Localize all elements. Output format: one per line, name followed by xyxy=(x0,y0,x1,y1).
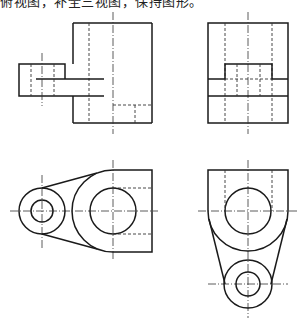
front-view xyxy=(19,12,152,134)
bottom-right-view xyxy=(198,160,298,318)
three-view-drawing xyxy=(0,0,304,326)
top-view xyxy=(10,160,158,260)
side-view xyxy=(208,12,288,134)
